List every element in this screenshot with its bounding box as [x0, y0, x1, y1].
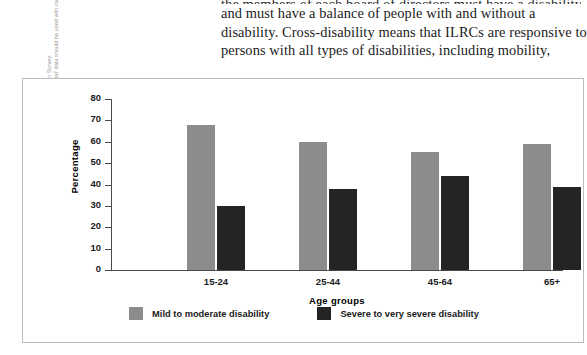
- y-axis-tick: 20: [105, 227, 111, 228]
- x-axis-line: [111, 270, 563, 271]
- bar: [523, 144, 551, 270]
- y-axis-line: [111, 99, 112, 270]
- y-axis-tick-label: 20: [90, 220, 101, 231]
- bar: [187, 125, 215, 270]
- chart-legend: Mild to moderate disability Severe to ve…: [23, 307, 585, 320]
- x-axis-title: Age groups: [111, 295, 563, 306]
- legend-swatch-icon: [129, 307, 143, 320]
- y-axis-tick-label: 0: [96, 263, 101, 274]
- y-axis-tick: 40: [105, 185, 111, 186]
- bar: [329, 189, 357, 270]
- y-axis-tick-label: 30: [90, 199, 101, 210]
- bar: [553, 187, 581, 270]
- y-axis-tick: 0: [105, 270, 111, 271]
- y-axis-tick-label: 70: [90, 113, 101, 124]
- body-text-line: and must have a balance of people with a…: [221, 4, 581, 23]
- figure-container: Percentage 01020304050607080 15-2425-444…: [22, 78, 584, 343]
- y-axis-tick-label: 80: [90, 92, 101, 103]
- bar: [217, 206, 245, 270]
- y-axis-tick-label: 10: [90, 242, 101, 253]
- y-axis-tick: 60: [105, 142, 111, 143]
- y-axis-tick-label: 50: [90, 156, 101, 167]
- bar: [441, 176, 469, 270]
- y-axis-tick: 30: [105, 206, 111, 207]
- legend-swatch-icon: [317, 307, 331, 320]
- x-axis-category-label: 65+: [492, 276, 587, 287]
- legend-item-mild: Mild to moderate disability: [129, 307, 269, 320]
- legend-item-severe: Severe to very severe disability: [317, 307, 479, 320]
- y-axis-tick: 50: [105, 163, 111, 164]
- y-axis-tick: 80: [105, 99, 111, 100]
- page-body-text: the members of each board of directors m…: [221, 0, 581, 60]
- legend-label: Severe to very severe disability: [340, 309, 479, 319]
- y-axis-tick: 10: [105, 249, 111, 250]
- y-axis-tick-label: 40: [90, 178, 101, 189]
- body-text-line: disability. Cross-disability means that …: [221, 23, 581, 42]
- x-axis-category-label: 15-24: [156, 276, 276, 287]
- bar-chart-plot-area: Percentage 01020304050607080 15-2425-444…: [111, 99, 563, 290]
- y-axis-tick: 70: [105, 120, 111, 121]
- x-axis-category-label: 25-44: [268, 276, 388, 287]
- bar: [299, 142, 327, 270]
- y-axis-title: Percentage: [69, 139, 80, 193]
- y-axis-tick-label: 60: [90, 135, 101, 146]
- body-text-line: persons with all types of disabilities, …: [221, 41, 581, 60]
- legend-label: Mild to moderate disability: [152, 309, 269, 319]
- bar: [411, 152, 439, 270]
- x-axis-category-label: 45-64: [380, 276, 500, 287]
